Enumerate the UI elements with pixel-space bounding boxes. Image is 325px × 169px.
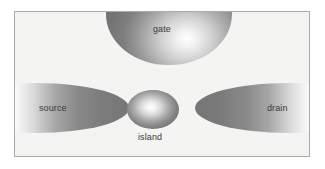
diagram-frame: gate source drain island bbox=[14, 11, 310, 157]
gate-electrode-shape bbox=[106, 11, 232, 65]
source-label: source bbox=[39, 103, 67, 113]
source-electrode-shape bbox=[14, 83, 129, 133]
island-label: island bbox=[138, 132, 162, 142]
drain-electrode-shape bbox=[195, 83, 310, 133]
drain-label: drain bbox=[267, 103, 288, 113]
gate-label: gate bbox=[153, 24, 171, 34]
island-shape bbox=[127, 90, 179, 129]
